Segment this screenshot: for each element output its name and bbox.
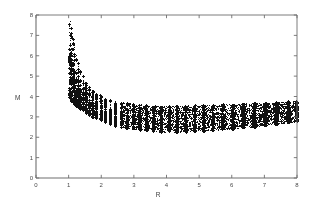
y-tick-label: 8 (24, 12, 33, 18)
scatter-points-layer (0, 0, 316, 206)
y-tick-label: 6 (24, 53, 33, 59)
y-tick-label: 7 (24, 32, 33, 38)
x-tick-label: 0 (34, 182, 37, 188)
x-tick-label: 1 (67, 182, 70, 188)
y-tick-label: 1 (24, 155, 33, 161)
scatter-plot-figure: 012345678 012345678 R M (0, 0, 316, 206)
x-tick-label: 5 (197, 182, 200, 188)
y-tick-label: 4 (24, 94, 33, 100)
x-tick-label: 4 (165, 182, 168, 188)
y-axis-title: M (15, 94, 20, 101)
x-axis-title: R (156, 191, 161, 198)
y-tick-label: 3 (24, 114, 33, 120)
y-tick-label: 2 (24, 134, 33, 140)
x-tick-label: 8 (295, 182, 298, 188)
x-tick-label: 6 (230, 182, 233, 188)
y-tick-label: 0 (24, 175, 33, 181)
y-tick-label: 5 (24, 73, 33, 79)
x-tick-label: 3 (132, 182, 135, 188)
x-tick-label: 2 (100, 182, 103, 188)
x-tick-label: 7 (263, 182, 266, 188)
